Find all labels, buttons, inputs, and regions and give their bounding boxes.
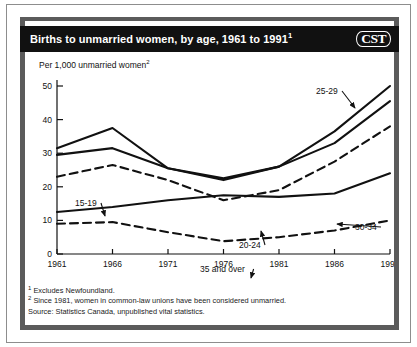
cst-logo: CST	[356, 31, 391, 47]
chart-title: Births to unmarried women, by age, 1961 …	[30, 33, 292, 45]
series-line-20-24	[57, 101, 390, 180]
footnote-1-text: Excludes Newfoundland.	[33, 286, 114, 295]
footnote-2: 2 Since 1981, women in common-law unions…	[28, 296, 388, 306]
chart-footnotes: 1 Excludes Newfoundland. 2 Since 1981, w…	[28, 286, 388, 317]
y-tick-label: 40	[43, 115, 53, 125]
series-line-25-29	[57, 86, 390, 178]
x-tick-label: 1966	[103, 259, 122, 269]
x-tick-label: 1971	[159, 259, 178, 269]
axes-group	[57, 80, 390, 254]
footnote-2-text: Since 1981, women in common-law unions h…	[33, 296, 286, 305]
line-chart-svg: 01020304050 1961196619711976198119861991…	[25, 58, 394, 280]
series-line-30-34	[57, 126, 390, 200]
chart-plot-area: Per 1,000 unmarried women2 01020304050 1…	[25, 58, 394, 280]
chart-figure: Births to unmarried women, by age, 1961 …	[0, 0, 417, 347]
x-tick-label: 1991	[381, 259, 394, 269]
series-line-35-and-over	[57, 220, 390, 241]
chart-title-footnote-marker: 1	[288, 31, 292, 40]
series-label-35-and-over: 35 and over	[200, 264, 245, 274]
leader-arrow-35-and-over	[251, 269, 254, 278]
data-series-group	[57, 86, 390, 241]
series-label-15-19: 15-19	[75, 198, 97, 208]
chart-header-bar: Births to unmarried women, by age, 1961 …	[20, 26, 399, 52]
x-tick-label: 1981	[270, 259, 289, 269]
series-label-20-24: 20-24	[239, 240, 261, 250]
y-tick-label: 50	[43, 81, 53, 91]
footnote-1-marker: 1	[28, 285, 31, 291]
footnote-source: Source: Statistics Canada, unpublished v…	[28, 307, 388, 317]
y-tick-label: 10	[43, 215, 53, 225]
x-tick-label: 1986	[325, 259, 344, 269]
footnote-1: 1 Excludes Newfoundland.	[28, 286, 388, 296]
series-label-25-29: 25-29	[316, 86, 338, 96]
y-axis-ticks: 01020304050	[43, 81, 63, 259]
y-tick-label: 20	[43, 182, 53, 192]
leader-arrow-25-29	[342, 91, 355, 108]
y-tick-label: 30	[43, 148, 53, 158]
y-tick-label: 0	[47, 249, 52, 259]
footnote-2-marker: 2	[28, 295, 31, 301]
chart-title-text: Births to unmarried women, by age, 1961 …	[30, 33, 288, 45]
x-tick-label: 1961	[48, 259, 67, 269]
leader-arrow-15-19	[101, 203, 105, 216]
